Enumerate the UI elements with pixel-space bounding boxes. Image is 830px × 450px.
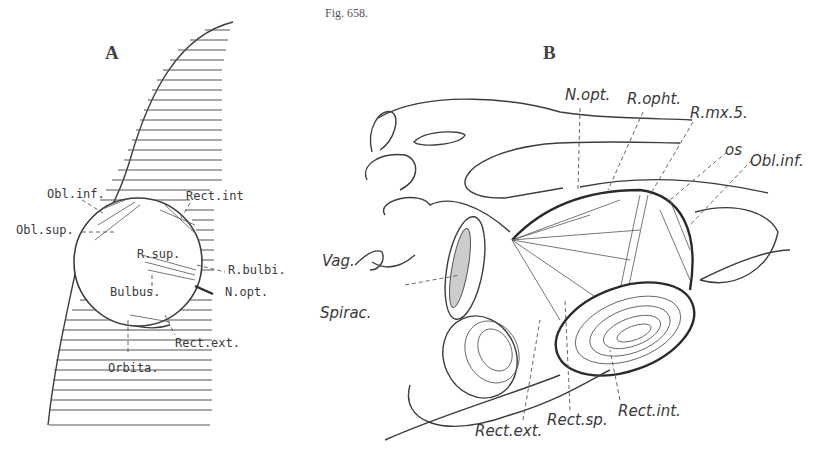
label-a-orbita: Orbita.: [108, 361, 159, 375]
skull-cranial-cavity: [465, 142, 680, 198]
optic-nerve-stub: [195, 286, 213, 294]
label-b-r-mx5: R.mx.5.: [690, 104, 748, 122]
skull-small-opening: [414, 132, 465, 145]
label-b-os: os: [725, 141, 742, 159]
label-b-rect-sp: Rect.sp.: [547, 411, 608, 429]
figure-illustration: Obl.inf. Obl.sup. Rect.int R.sup. R.bulb…: [0, 0, 830, 450]
panel-b-drawing: N.opt. R.opht. R.mx.5. os Obl.inf. Vag. …: [320, 86, 804, 440]
label-b-spirac: Spirac.: [320, 304, 372, 322]
label-a-r-bulbi: R.bulbi.: [228, 263, 286, 277]
spiracle: [438, 214, 492, 323]
label-b-rect-ext: Rect.ext.: [475, 422, 542, 440]
skull-orbit-front: [366, 155, 416, 190]
label-b-n-opt: N.opt.: [565, 86, 610, 104]
label-a-rect-int: Rect.int: [186, 189, 244, 203]
jaw-outline: [384, 198, 510, 232]
label-b-vag: Vag.: [322, 252, 355, 270]
eyeball-dome: [512, 190, 693, 290]
vagus-nerve: [355, 251, 415, 270]
label-a-r-sup: R.sup.: [137, 247, 180, 261]
skull-front-lobe: [371, 111, 396, 152]
label-a-rect-ext: Rect.ext.: [175, 336, 240, 350]
label-a-bulbus: Bulbus.: [110, 285, 161, 299]
label-a-n-opt: N.opt.: [225, 285, 268, 299]
label-b-rect-int: Rect.int.: [618, 402, 681, 420]
label-b-r-opht: R.opht.: [627, 90, 681, 108]
eyeball-bulbus: [74, 198, 202, 326]
panel-a-drawing: Obl.inf. Obl.sup. Rect.int R.sup. R.bulb…: [16, 22, 286, 425]
snout-tail-line: [700, 250, 790, 280]
label-a-obl-sup: Obl.sup.: [16, 223, 74, 237]
left-bulb: [430, 304, 531, 411]
label-b-obl-inf: Obl.inf.: [750, 152, 804, 170]
snout-outline: [695, 208, 778, 283]
label-a-obl-inf: Obl.inf.: [47, 187, 105, 201]
eyeball-section: [543, 265, 707, 393]
